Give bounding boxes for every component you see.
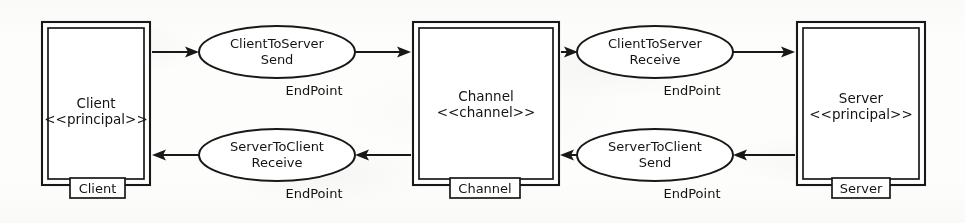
endpoint-client-to-server-send-type: EndPoint <box>286 83 343 98</box>
node-channel-tab-label: Channel <box>458 181 511 196</box>
node-client[interactable]: Client <<principal>> Client <box>42 22 150 198</box>
endpoint-client-to-server-send[interactable]: ClientToServer Send EndPoint <box>199 26 355 98</box>
endpoint-client-to-server-receive-line2: Receive <box>630 52 681 67</box>
connection-cts-send-to-channel <box>355 47 411 58</box>
endpoint-server-to-client-send-type: EndPoint <box>664 186 721 201</box>
connection-server-to-stc-send <box>733 150 795 161</box>
connection-channel-to-cts-receive <box>561 47 578 58</box>
endpoint-client-to-server-receive[interactable]: ClientToServer Receive EndPoint <box>577 26 733 98</box>
endpoint-client-to-server-receive-line1: ClientToServer <box>608 36 703 51</box>
endpoint-server-to-client-send[interactable]: ServerToClient Send EndPoint <box>577 129 733 201</box>
connection-client-to-cts-send <box>152 47 199 58</box>
endpoint-server-to-client-receive-type: EndPoint <box>286 186 343 201</box>
node-server-name: Server <box>839 90 884 106</box>
endpoint-server-to-client-send-line1: ServerToClient <box>608 139 702 154</box>
endpoint-client-to-server-send-line1: ClientToServer <box>230 36 325 51</box>
uml-deployment-diagram: Client <<principal>> Client Channel <<ch… <box>0 0 965 223</box>
node-channel[interactable]: Channel <<channel>> Channel <box>413 22 559 198</box>
endpoint-client-to-server-send-line2: Send <box>261 52 294 67</box>
node-channel-name: Channel <box>458 88 513 104</box>
connection-stc-send-to-channel <box>560 150 577 161</box>
node-server-stereotype: <<principal>> <box>809 106 912 122</box>
endpoint-server-to-client-receive[interactable]: ServerToClient Receive EndPoint <box>199 129 355 201</box>
node-server[interactable]: Server <<principal>> Server <box>797 22 925 198</box>
endpoint-server-to-client-receive-line2: Receive <box>252 155 303 170</box>
connection-stc-receive-to-client <box>152 150 199 161</box>
connection-channel-to-stc-receive <box>355 150 411 161</box>
node-client-tab-label: Client <box>79 181 117 196</box>
node-channel-stereotype: <<channel>> <box>437 104 536 120</box>
endpoint-server-to-client-send-line2: Send <box>639 155 672 170</box>
endpoint-server-to-client-receive-line1: ServerToClient <box>230 139 324 154</box>
connection-cts-receive-to-server <box>733 47 795 58</box>
node-server-tab-label: Server <box>840 181 883 196</box>
endpoint-client-to-server-receive-type: EndPoint <box>664 83 721 98</box>
node-client-stereotype: <<principal>> <box>44 111 147 127</box>
diagram-canvas: Client <<principal>> Client Channel <<ch… <box>0 0 965 223</box>
node-client-name: Client <box>76 95 115 111</box>
